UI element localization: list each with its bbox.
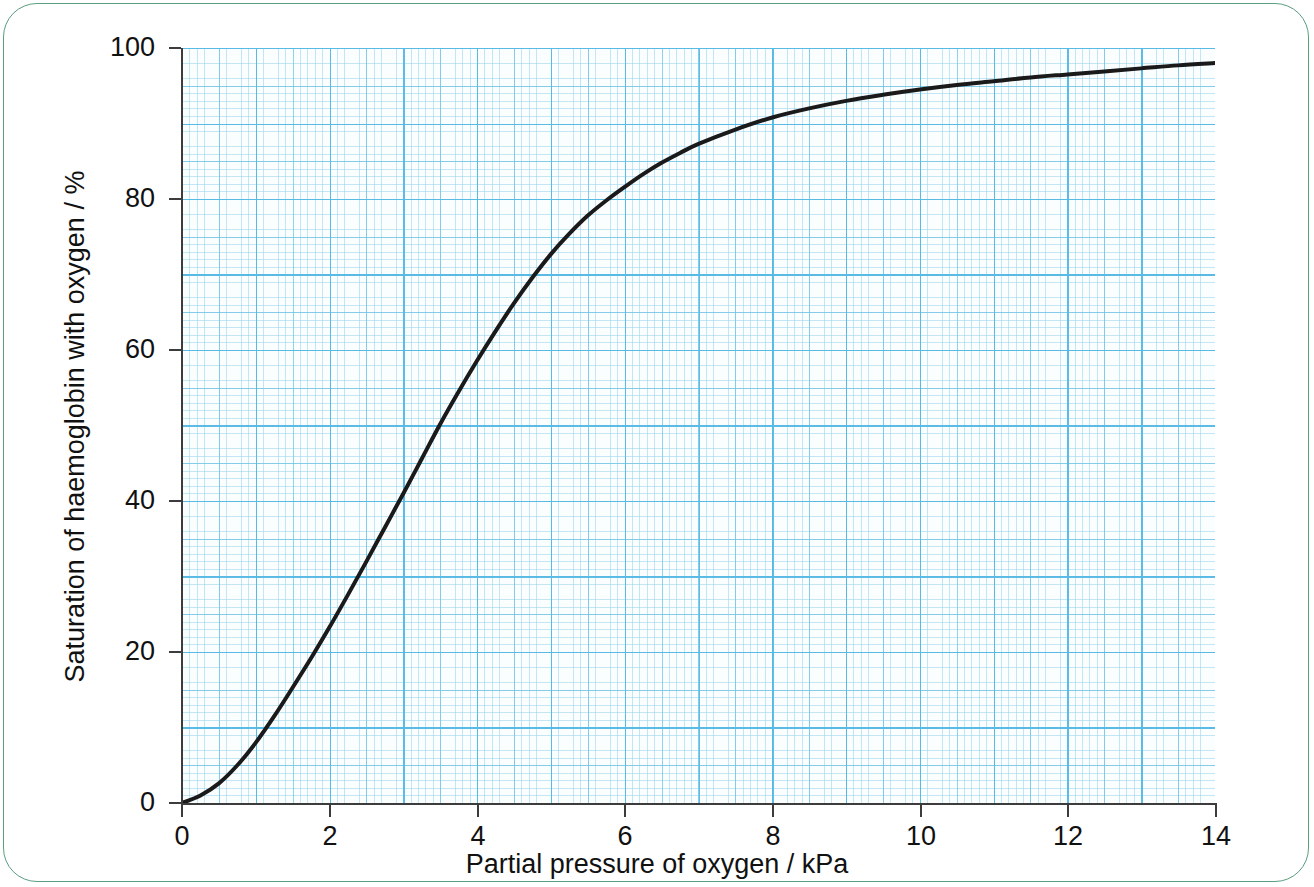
x-tick-label-4: 4 <box>438 823 518 850</box>
y-tick-40 <box>169 500 181 502</box>
x-tick-label-2: 2 <box>290 823 370 850</box>
x-tick-14 <box>1215 805 1217 817</box>
y-tick-0 <box>169 802 181 804</box>
oxygen-dissociation-chart: 100 80 60 40 20 0 0 2 4 6 8 10 12 14 Par… <box>0 0 1314 887</box>
x-tick-6 <box>624 805 626 817</box>
y-tick-80 <box>169 198 181 200</box>
x-tick-label-8: 8 <box>733 823 813 850</box>
plot-area <box>182 48 1215 803</box>
x-tick-label-6: 6 <box>585 823 665 850</box>
x-tick-label-14: 14 <box>1176 823 1256 850</box>
x-tick-label-10: 10 <box>881 823 961 850</box>
curve-oxygen-dissociation <box>182 48 1215 803</box>
x-tick-12 <box>1067 805 1069 817</box>
x-tick-4 <box>477 805 479 817</box>
y-tick-60 <box>169 349 181 351</box>
x-tick-10 <box>920 805 922 817</box>
y-tick-100 <box>169 47 181 49</box>
x-tick-8 <box>772 805 774 817</box>
y-tick-20 <box>169 651 181 653</box>
y-axis-line <box>181 48 183 805</box>
x-tick-2 <box>329 805 331 817</box>
x-tick-0 <box>181 805 183 817</box>
y-tick-label-100: 100 <box>0 34 155 61</box>
x-tick-label-12: 12 <box>1028 823 1108 850</box>
x-tick-label-0: 0 <box>142 823 222 850</box>
y-tick-label-0: 0 <box>0 789 155 816</box>
x-axis-line <box>181 803 1217 805</box>
y-axis-title: Saturation of haemoglobin with oxygen / … <box>60 67 91 787</box>
x-axis-title: Partial pressure of oxygen / kPa <box>0 849 1314 880</box>
